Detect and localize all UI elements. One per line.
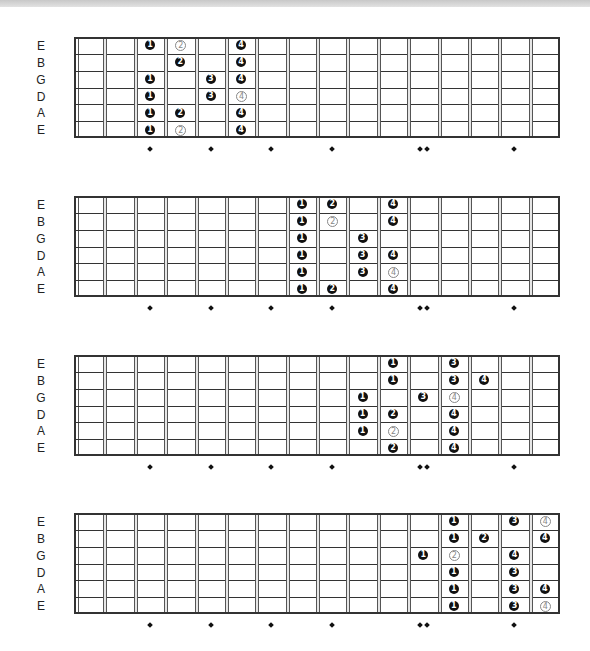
string-label: B <box>34 373 48 390</box>
fret-line <box>407 357 411 454</box>
inlay-dot-icon <box>512 622 518 628</box>
finger-marker-1: 1 <box>449 601 459 611</box>
inlay-dot-icon <box>329 305 335 311</box>
inlay-dot-icon <box>424 305 430 311</box>
inlay-dot-icon <box>147 146 153 152</box>
fret-line <box>498 515 502 612</box>
fret-line <box>103 515 107 612</box>
inlay-dot-icon <box>424 464 430 470</box>
inlay-dot-icon <box>424 622 430 628</box>
string-label: D <box>34 89 48 106</box>
string-label: G <box>34 231 48 248</box>
string-label: E <box>34 598 48 615</box>
fretboard-diagram-4: EBGDAE13412412413134134 <box>0 513 590 643</box>
inlay-dot-icon <box>269 146 275 152</box>
finger-marker-4: 4 <box>236 91 247 102</box>
finger-marker-4: 4 <box>388 284 398 294</box>
string-label: A <box>34 105 48 122</box>
finger-marker-4: 4 <box>388 250 398 260</box>
finger-marker-1: 1 <box>297 216 307 226</box>
fret-line <box>346 515 350 612</box>
fret-line <box>529 357 533 454</box>
fret-line <box>346 198 350 295</box>
finger-marker-1: 1 <box>449 533 459 543</box>
finger-marker-4: 4 <box>236 57 246 67</box>
fret-line <box>468 357 472 454</box>
fret-line <box>529 198 533 295</box>
fretboard-diagram-2: EBGDAE12412413134134124 <box>0 196 590 326</box>
finger-marker-1: 1 <box>145 91 155 101</box>
inlay-dot-icon <box>147 305 153 311</box>
fret-line <box>195 357 199 454</box>
finger-marker-2: 2 <box>388 443 398 453</box>
finger-marker-2: 2 <box>327 216 338 227</box>
fret-line <box>103 357 107 454</box>
string-label: D <box>34 407 48 424</box>
inlay-dot-icon <box>417 622 423 628</box>
fret-line <box>164 198 168 295</box>
finger-marker-3: 3 <box>449 358 459 368</box>
finger-marker-3: 3 <box>449 375 459 385</box>
finger-marker-1: 1 <box>145 74 155 84</box>
finger-marker-1: 1 <box>145 125 155 135</box>
finger-marker-3: 3 <box>509 601 519 611</box>
string-label: D <box>34 248 48 265</box>
finger-marker-4: 4 <box>449 426 459 436</box>
finger-marker-3: 3 <box>358 267 368 277</box>
string-label: B <box>34 531 48 548</box>
finger-marker-1: 1 <box>388 358 398 368</box>
finger-marker-4: 4 <box>540 584 550 594</box>
finger-marker-2: 2 <box>327 199 337 209</box>
finger-marker-2: 2 <box>327 284 337 294</box>
fret-line <box>164 357 168 454</box>
finger-marker-1: 1 <box>449 567 459 577</box>
fret-line <box>377 515 381 612</box>
string-label: E <box>34 514 48 531</box>
fret-line <box>377 39 381 136</box>
string-label: A <box>34 264 48 281</box>
finger-marker-2: 2 <box>175 108 185 118</box>
finger-marker-4: 4 <box>449 443 459 453</box>
inlay-dot-icon <box>147 622 153 628</box>
fret-line <box>225 198 229 295</box>
string-label: B <box>34 214 48 231</box>
fret-line <box>225 515 229 612</box>
fret-line <box>316 357 320 454</box>
fret-line <box>255 198 259 295</box>
string-label: A <box>34 423 48 440</box>
fret-line <box>377 357 381 454</box>
string-label: G <box>34 548 48 565</box>
finger-marker-1: 1 <box>358 426 368 436</box>
fret-line <box>438 198 442 295</box>
fret-line <box>195 198 199 295</box>
inlay-dot-icon <box>417 305 423 311</box>
string-label: D <box>34 565 48 582</box>
inlay-dot-icon <box>329 622 335 628</box>
fret-line <box>286 39 290 136</box>
string-label: E <box>34 281 48 298</box>
finger-marker-4: 4 <box>388 216 398 226</box>
finger-marker-3: 3 <box>358 250 368 260</box>
string-label: A <box>34 581 48 598</box>
finger-marker-4: 4 <box>540 516 551 527</box>
fret-line <box>103 39 107 136</box>
inlay-dot-icon <box>329 464 335 470</box>
fret-line <box>316 515 320 612</box>
finger-marker-1: 1 <box>297 250 307 260</box>
string-label: B <box>34 55 48 72</box>
finger-marker-1: 1 <box>418 550 428 560</box>
string-label: E <box>34 440 48 457</box>
finger-marker-1: 1 <box>297 284 307 294</box>
finger-marker-1: 1 <box>145 108 155 118</box>
fret-line <box>225 39 229 136</box>
finger-marker-3: 3 <box>358 233 368 243</box>
fret-line <box>438 357 442 454</box>
finger-marker-4: 4 <box>540 533 550 543</box>
inlay-dot-icon <box>512 146 518 152</box>
inlay-dot-icon <box>269 622 275 628</box>
inlay-dot-icon <box>147 464 153 470</box>
fret-line <box>255 515 259 612</box>
fret-line <box>346 39 350 136</box>
inlay-dot-icon <box>512 305 518 311</box>
fret-line <box>195 39 199 136</box>
